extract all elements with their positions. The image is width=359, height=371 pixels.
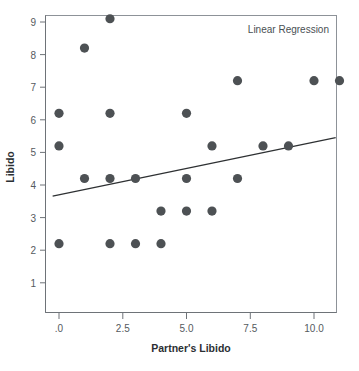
data-point bbox=[156, 239, 165, 248]
data-point bbox=[105, 109, 114, 118]
y-tick-label-7: 7 bbox=[30, 82, 36, 93]
data-point bbox=[105, 14, 114, 23]
y-tick-label-1: 1 bbox=[30, 278, 36, 289]
data-point bbox=[54, 109, 63, 118]
data-point bbox=[335, 76, 344, 85]
data-point bbox=[207, 206, 216, 215]
y-tick-label-9: 9 bbox=[30, 17, 36, 28]
data-point bbox=[54, 239, 63, 248]
data-point bbox=[54, 141, 63, 150]
data-point bbox=[80, 174, 89, 183]
data-point bbox=[80, 43, 89, 52]
data-point bbox=[131, 174, 140, 183]
y-tick-label-5: 5 bbox=[30, 147, 36, 158]
x-tick-label-10: 10.0 bbox=[304, 323, 324, 334]
data-point bbox=[105, 239, 114, 248]
data-point bbox=[258, 141, 267, 150]
data-point bbox=[182, 206, 191, 215]
plot-background bbox=[46, 16, 337, 313]
y-tick-label-6: 6 bbox=[30, 115, 36, 126]
data-point bbox=[131, 239, 140, 248]
chart-page: 9 8 7 6 5 4 3 2 1 Libido .0 2.5 5.0 7.5 bbox=[0, 0, 359, 371]
data-point bbox=[156, 206, 165, 215]
data-point bbox=[207, 141, 216, 150]
x-tick-label-7p5: 7.5 bbox=[243, 323, 257, 334]
x-tick-label-0: .0 bbox=[55, 323, 64, 334]
x-tick-marks bbox=[59, 313, 314, 320]
y-axis-title: Libido bbox=[4, 151, 16, 183]
data-point bbox=[284, 141, 293, 150]
data-point bbox=[105, 174, 114, 183]
x-axis: .0 2.5 5.0 7.5 10.0 Partner's Libido bbox=[46, 313, 337, 355]
scatter-plot: 9 8 7 6 5 4 3 2 1 Libido .0 2.5 5.0 7.5 bbox=[0, 0, 359, 371]
y-tick-label-3: 3 bbox=[30, 213, 36, 224]
x-tick-label-2p5: 2.5 bbox=[116, 323, 130, 334]
y-tick-label-8: 8 bbox=[30, 50, 36, 61]
regression-annotation: Linear Regression bbox=[248, 24, 329, 35]
data-point bbox=[233, 174, 242, 183]
y-tick-label-2: 2 bbox=[30, 245, 36, 256]
y-tick-marks bbox=[40, 22, 46, 283]
y-axis: 9 8 7 6 5 4 3 2 1 Libido bbox=[4, 16, 46, 313]
x-tick-label-5: 5.0 bbox=[180, 323, 194, 334]
data-point bbox=[182, 109, 191, 118]
x-axis-title: Partner's Libido bbox=[151, 342, 231, 354]
data-point bbox=[309, 76, 318, 85]
data-point bbox=[182, 174, 191, 183]
data-point bbox=[233, 76, 242, 85]
y-tick-label-4: 4 bbox=[30, 180, 36, 191]
